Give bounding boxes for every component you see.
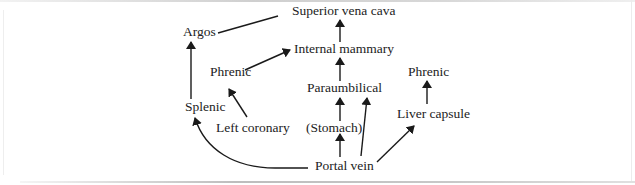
node-phrenic-left: Phrenic [210, 65, 251, 79]
node-stomach: (Stomach) [306, 121, 362, 135]
diagram-canvas: Superior vena cava Argos Internal mammar… [0, 0, 635, 185]
node-phrenic-right: Phrenic [408, 65, 449, 79]
node-superior-vena-cava: Superior vena cava [292, 4, 395, 18]
edge-left-coronary-phrenic-arrow [229, 89, 247, 117]
edge-portal-liver-capsule-arrow [377, 126, 414, 162]
node-portal-vein: Portal vein [315, 159, 374, 173]
node-liver-capsule: Liver capsule [397, 107, 470, 121]
node-paraumbilical: Paraumbilical [307, 81, 382, 95]
node-internal-mammary: Internal mammary [294, 42, 394, 56]
node-left-coronary: Left coronary [216, 121, 290, 135]
node-argos: Argos [183, 25, 216, 39]
edge-phrenic-internal-mammary-arrow [245, 50, 290, 70]
node-splenic: Splenic [185, 100, 226, 114]
edge-argos-svc [218, 16, 278, 33]
